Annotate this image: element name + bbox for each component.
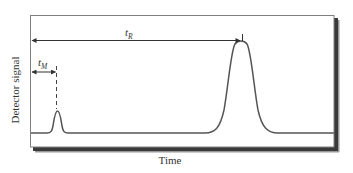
plot-frame: [31, 16, 335, 148]
chromatogram-diagram: tR tM Detector signal Time: [0, 0, 353, 173]
x-axis-label: Time: [159, 154, 182, 166]
y-axis-label: Detector signal: [9, 57, 21, 124]
